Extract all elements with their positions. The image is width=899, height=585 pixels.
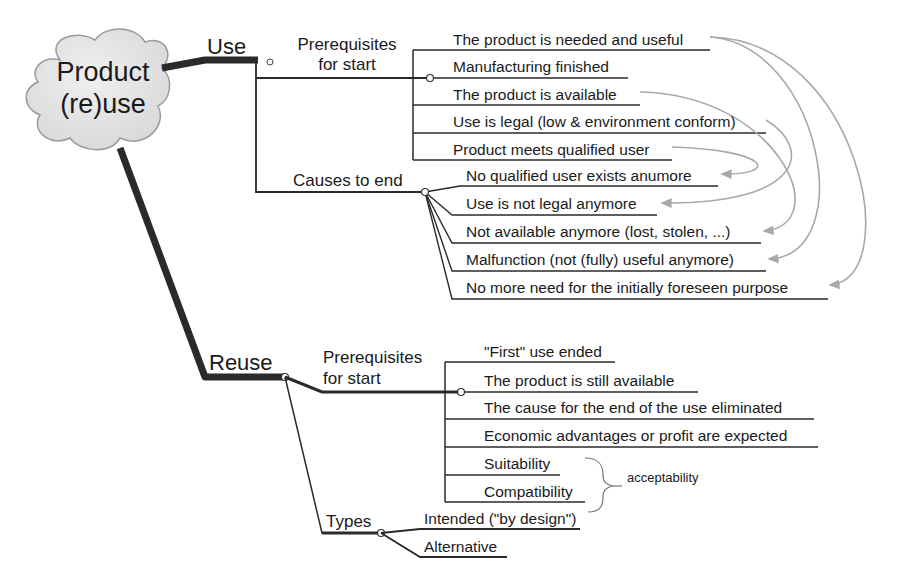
use-prereq-item[interactable]: Manufacturing finished <box>453 59 609 75</box>
label-line2: for start <box>323 368 422 389</box>
use-prereq-item[interactable]: The product is needed and useful <box>453 32 683 48</box>
label-line1: Prerequisites <box>323 347 422 368</box>
use-prereq-item[interactable]: Use is legal (low & environment conform) <box>453 114 736 130</box>
central-topic[interactable]: Product (re)use <box>40 56 166 121</box>
label-line2: for start <box>286 55 408 75</box>
acceptability-brace <box>585 458 612 512</box>
reuse-prereq-item[interactable]: Economic advantages or profit are expect… <box>484 428 787 444</box>
cause-item[interactable]: No more need for the initially foreseen … <box>466 280 788 296</box>
cause-item[interactable]: Use is not legal anymore <box>466 196 637 212</box>
use-prereq-item[interactable]: Product meets qualified user <box>453 142 649 158</box>
central-topic-line1: Product <box>40 56 166 88</box>
branch-use-line <box>162 60 258 68</box>
cause-item[interactable]: Malfunction (not (fully) useful anymore) <box>466 252 734 268</box>
reuse-prereq-item[interactable]: "First" use ended <box>484 344 602 360</box>
reuse-prereq-item[interactable]: Suitability <box>484 456 550 472</box>
topic-reuse-prerequisites[interactable]: Prerequisites for start <box>323 347 422 390</box>
topic-use[interactable]: Use <box>207 36 246 58</box>
type-item[interactable]: Intended ("by design") <box>424 511 576 527</box>
topic-reuse[interactable]: Reuse <box>209 352 273 374</box>
reuse-prereq-item[interactable]: The cause for the end of the use elimina… <box>484 400 782 416</box>
type-item[interactable]: Alternative <box>424 539 497 555</box>
reuse-prereq-item[interactable]: Compatibility <box>484 484 573 500</box>
cause-item[interactable]: Not available anymore (lost, stolen, ...… <box>466 224 730 240</box>
topic-types[interactable]: Types <box>326 513 371 530</box>
branch-reuse-line <box>120 148 285 377</box>
topic-causes-to-end[interactable]: Causes to end <box>293 172 403 189</box>
central-topic-line2: (re)use <box>40 88 166 120</box>
cause-item[interactable]: No qualified user exists anumore <box>466 168 692 184</box>
use-prereq-item[interactable]: The product is available <box>453 87 617 103</box>
reuse-prereq-item[interactable]: The product is still available <box>484 373 674 389</box>
label-line1: Prerequisites <box>286 35 408 55</box>
topic-use-prerequisites[interactable]: Prerequisites for start <box>286 35 408 76</box>
acceptability-annotation: acceptability <box>627 471 699 484</box>
